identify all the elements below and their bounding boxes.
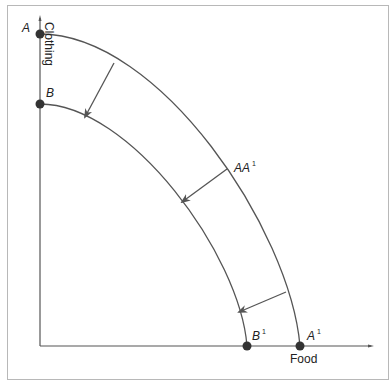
ppf-diagram [0, 0, 392, 384]
label-a1: A1 [307, 328, 321, 342]
shift-arrow-top [85, 63, 114, 117]
shift-arrow-middle [182, 169, 227, 202]
shift-arrow-bottom [239, 292, 286, 312]
label-b1: B1 [252, 328, 266, 342]
point-b [36, 100, 45, 109]
curve-bb1 [40, 104, 247, 346]
label-aa1: AA1 [234, 160, 256, 174]
y-axis-label: Clothing [42, 22, 56, 66]
y-axis-arrow-icon [39, 15, 42, 21]
x-axis-label: Food [290, 353, 317, 365]
point-a1 [296, 342, 305, 351]
label-a: A [22, 22, 30, 34]
label-b: B [46, 87, 54, 99]
x-axis-arrow-icon [368, 345, 374, 348]
point-b1 [243, 342, 252, 351]
curve-aa1 [40, 34, 300, 346]
